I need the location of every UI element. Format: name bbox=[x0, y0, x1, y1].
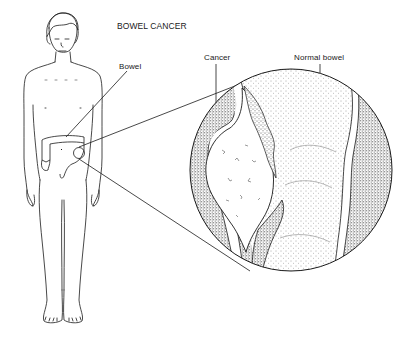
colon bbox=[41, 136, 84, 179]
label-bowel: Bowel bbox=[119, 62, 141, 71]
head bbox=[49, 13, 77, 52]
bowel-leader-line bbox=[66, 71, 127, 137]
magnified-view bbox=[180, 60, 409, 290]
bowel-cancer-diagram: BOWEL CANCER Bowel Cancer Normal bowel bbox=[0, 0, 409, 346]
human-figure bbox=[24, 13, 102, 323]
label-cancer: Cancer bbox=[204, 53, 230, 62]
diagram-title: BOWEL CANCER bbox=[117, 21, 187, 31]
label-normal-bowel: Normal bowel bbox=[294, 53, 344, 62]
illustration bbox=[0, 0, 409, 346]
